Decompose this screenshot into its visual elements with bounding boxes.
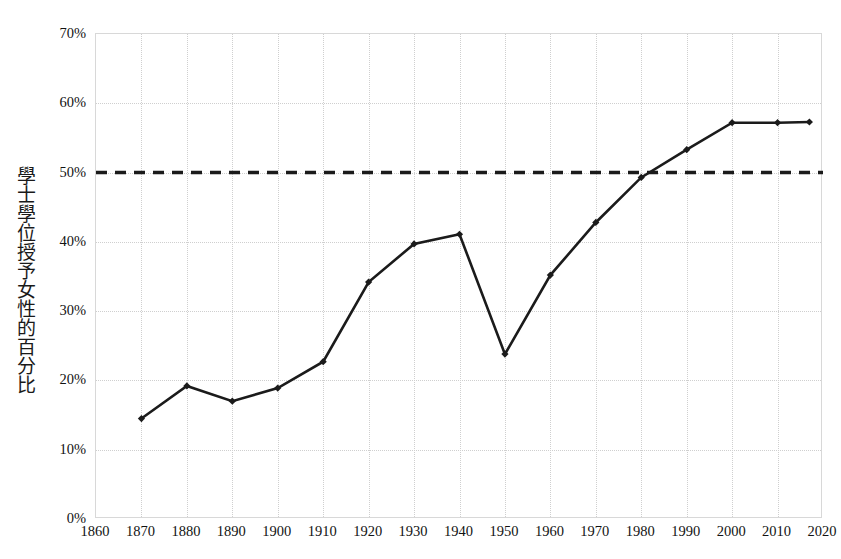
x-tick-label-1960: 1960	[535, 523, 564, 540]
plot-area	[95, 33, 822, 518]
y-tick-label-40: 40%	[9, 232, 95, 249]
y-tick-label-70: 70%	[9, 25, 95, 42]
x-tick-label-1880: 1880	[171, 523, 200, 540]
y-axis-tick-label-group: 0%10%20%30%40%50%60%70%	[0, 33, 95, 518]
x-axis-tick-label-group: 1860187018801890190019101920193019401950…	[0, 518, 841, 548]
x-tick-label-1870: 1870	[126, 523, 155, 540]
x-tick-label-1970: 1970	[580, 523, 609, 540]
x-tick-label-1890: 1890	[217, 523, 246, 540]
x-tick-label-1860: 1860	[81, 523, 110, 540]
x-tick-label-2020: 2020	[808, 523, 837, 540]
y-tick-label-20: 20%	[9, 371, 95, 388]
x-tick-label-1900: 1900	[262, 523, 291, 540]
x-tick-label-1920: 1920	[353, 523, 382, 540]
data-point-2010	[774, 119, 781, 126]
x-tick-label-2000: 2000	[717, 523, 746, 540]
data-point-2017	[806, 118, 813, 125]
x-tick-label-2010: 2010	[762, 523, 791, 540]
data-point-1890	[229, 398, 236, 405]
y-tick-label-60: 60%	[9, 94, 95, 111]
y-tick-label-30: 30%	[9, 302, 95, 319]
y-tick-label-10: 10%	[9, 440, 95, 457]
data-point-1940	[456, 231, 463, 238]
x-tick-label-1930: 1930	[399, 523, 428, 540]
x-tick-label-1990: 1990	[671, 523, 700, 540]
y-tick-label-50: 50%	[9, 163, 95, 180]
data-point-markers	[138, 118, 813, 422]
x-tick-label-1980: 1980	[626, 523, 655, 540]
data-series-layer	[96, 34, 823, 519]
chart-container: 學士學位授予女性的百分比 0%10%20%30%40%50%60%70% 186…	[0, 0, 841, 559]
x-tick-label-1940: 1940	[444, 523, 473, 540]
series-line-path	[141, 122, 809, 419]
x-tick-label-1950: 1950	[489, 523, 518, 540]
x-tick-label-1910: 1910	[308, 523, 337, 540]
